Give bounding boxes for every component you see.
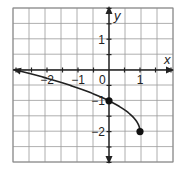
y-tick-label: −2	[91, 125, 105, 139]
function-graph: x y −2−101 1−1−2	[0, 0, 178, 173]
y-tick-label: 1	[98, 33, 105, 47]
y-axis-label: y	[113, 8, 122, 23]
y-axis-arrow-up-icon	[106, 6, 113, 14]
x-tick-label: −1	[71, 73, 85, 87]
closed-point	[105, 97, 112, 104]
x-tick-label: 0	[99, 73, 106, 87]
curve-left-arrow-icon	[13, 68, 22, 75]
x-axis-label: x	[163, 52, 171, 67]
x-tick-label: 1	[137, 73, 144, 87]
closed-point	[136, 128, 143, 135]
